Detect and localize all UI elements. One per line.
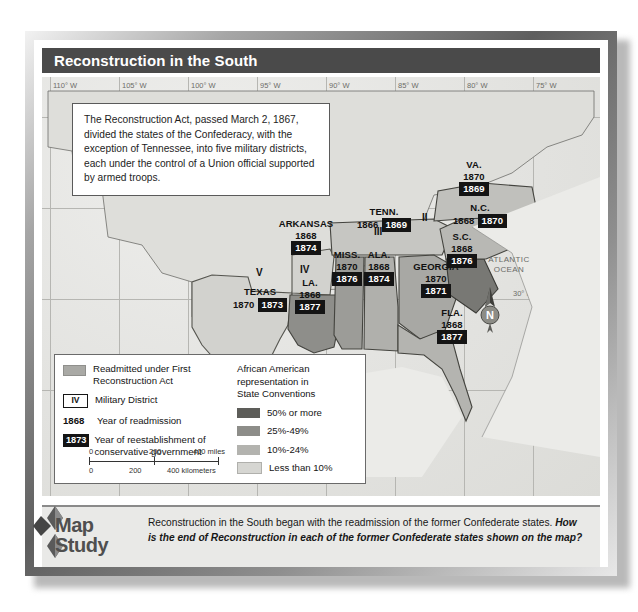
legend-label-readmitted: Readmitted under First Reconstruction Ac… (93, 363, 191, 387)
state-name-northcarolina: N.C. (438, 202, 522, 214)
legend-label-rep-25: 25%-49% (267, 425, 309, 437)
legend-label-rep-less: Less than 10% (269, 462, 332, 474)
map-legend: Readmitted under First Reconstruction Ac… (54, 354, 366, 484)
state-conservative-arkansas: 1874 (291, 241, 321, 255)
legend-label-rep-10: 10%-24% (267, 444, 309, 456)
state-label-northcarolina: N.C. 1868 1870 (438, 202, 522, 228)
map-title-bar: Reconstruction in the South (42, 48, 600, 73)
reconstruction-act-callout: The Reconstruction Act, passed March 2, … (72, 103, 330, 196)
state-conservative-tennessee: 1869 (382, 218, 412, 232)
district-label-ii: II (422, 212, 428, 223)
state-name-florida: FLA. (430, 307, 474, 319)
state-readmission-northcarolina: 1868 (453, 215, 475, 227)
scale-ruler (89, 457, 241, 465)
state-readmission-virginia: 1870 (450, 171, 498, 183)
state-conservative-texas: 1873 (258, 298, 288, 312)
state-name-tennessee: TENN. (342, 206, 426, 218)
state-readmission-tennessee: 1866 (357, 219, 379, 231)
legend-label-readmission-year: Year of readmission (97, 415, 181, 427)
state-label-alabama: ALA. 1868 1874 (357, 249, 401, 286)
scale-miles-400: 400 miles (193, 447, 225, 456)
state-label-tennessee: TENN. 1866 1869 (342, 206, 426, 232)
state-readmission-georgia: 1870 (402, 273, 470, 285)
legend-row-rep-50: 50% or more (237, 407, 365, 419)
state-conservative-alabama: 1874 (364, 272, 394, 286)
map-scale-bar: 0 200 400 miles 0 200 400 kilometers (89, 447, 241, 476)
map-page: Reconstruction in the South 110° W 105° … (0, 0, 638, 612)
state-label-florida: FLA. 1868 1877 (430, 307, 474, 344)
caption-text: Reconstruction in the South began with t… (148, 516, 588, 545)
state-name-alabama: ALA. (357, 249, 401, 261)
state-conservative-georgia: 1871 (421, 284, 451, 298)
scale-km-400: 400 kilometers (167, 466, 216, 475)
legend-right-column: African American representation in State… (233, 355, 365, 483)
legend-row-military-district: IV Military District (63, 394, 233, 408)
legend-row-rep-less: Less than 10% (237, 462, 365, 474)
legend-row-rep-25: 25%-49% (237, 425, 365, 437)
state-readmission-alabama: 1868 (357, 261, 401, 273)
map-study-badge: Map Study (33, 504, 125, 570)
state-readmission-louisiana: 1868 (286, 289, 334, 301)
compass-rose-icon: N (476, 285, 504, 335)
scale-km-0: 0 (89, 466, 93, 475)
scale-miles-labels: 0 200 400 miles (89, 447, 241, 457)
legend-row-readmission-year: 1868 Year of readmission (63, 415, 233, 427)
map-canvas: 110° W 105° W 100° W 95° W 90° W 85° W 8… (42, 77, 600, 496)
state-readmission-southcarolina: 1868 (440, 243, 484, 255)
state-name-arkansas: ARKANSAS (270, 218, 342, 230)
district-label-iv: IV (300, 264, 309, 275)
legend-swatch-rep-25 (237, 426, 260, 436)
state-conservative-northcarolina: 1870 (478, 214, 508, 228)
legend-swatch-readmitted (63, 365, 86, 376)
legend-left-column: Readmitted under First Reconstruction Ac… (55, 355, 233, 483)
state-readmission-arkansas: 1868 (270, 230, 342, 242)
scale-km-200: 200 (129, 466, 142, 475)
state-conservative-louisiana: 1877 (295, 300, 325, 314)
state-name-virginia: VA. (450, 159, 498, 171)
legend-military-district-box: IV (63, 394, 88, 408)
state-conservative-southcarolina: 1876 (447, 254, 477, 268)
scale-miles-0: 0 (89, 447, 93, 456)
state-readmission-texas: 1870 (233, 299, 255, 311)
district-label-v: V (256, 267, 263, 278)
state-readmission-florida: 1868 (430, 319, 474, 331)
state-name-southcarolina: S.C. (440, 231, 484, 243)
legend-row-readmitted: Readmitted under First Reconstruction Ac… (63, 363, 233, 387)
callout-text: The Reconstruction Act, passed March 2, … (84, 114, 314, 183)
atlantic-ocean-label: ATLANTIC OCEAN (474, 255, 544, 275)
legend-label-military-district: Military District (95, 394, 157, 406)
svg-text:N: N (486, 309, 494, 321)
legend-swatch-rep-50 (237, 408, 260, 418)
caption-band: Reconstruction in the South began with t… (42, 505, 600, 567)
legend-representation-heading: African American representation in State… (237, 363, 365, 401)
legend-year-conservative-example: 1873 (63, 434, 89, 447)
legend-row-rep-10: 10%-24% (237, 444, 365, 456)
caption-lead: Reconstruction in the South began with t… (148, 517, 552, 528)
page-title: Reconstruction in the South (42, 52, 258, 69)
state-conservative-virginia: 1869 (459, 182, 489, 196)
scale-miles-200: 200 (149, 447, 162, 456)
legend-label-rep-50: 50% or more (267, 407, 322, 419)
state-conservative-florida: 1877 (437, 330, 467, 344)
map-study-word-study: Study (55, 534, 108, 557)
legend-year-readmission-example: 1868 (63, 415, 93, 426)
scale-km-labels: 0 200 400 kilometers (89, 466, 241, 476)
state-label-virginia: VA. 1870 1869 (450, 159, 498, 196)
